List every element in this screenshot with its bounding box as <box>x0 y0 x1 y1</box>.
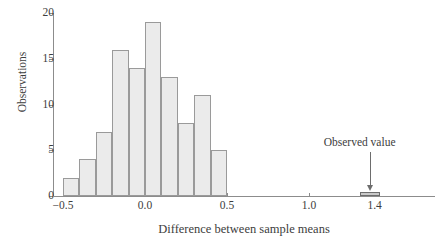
histogram-bar <box>63 178 79 196</box>
histogram-bar <box>194 95 210 196</box>
observed-value-arrow-stem <box>370 152 371 186</box>
observed-value-arrow-head <box>367 185 373 191</box>
histogram-bar <box>145 22 161 196</box>
histogram-bar <box>112 50 128 196</box>
plot-area: Observed value <box>0 0 441 242</box>
histogram-bar <box>178 123 194 196</box>
histogram-figure: 05101520 Observations −0.50.00.51.01.4 D… <box>0 0 441 242</box>
observed-value-label: Observed value <box>324 136 396 149</box>
histogram-bar <box>129 68 145 196</box>
histogram-bar <box>96 132 112 196</box>
histogram-bar <box>211 150 227 196</box>
histogram-bar <box>79 159 95 196</box>
histogram-bar <box>161 77 177 196</box>
observed-value-bar <box>360 192 380 196</box>
